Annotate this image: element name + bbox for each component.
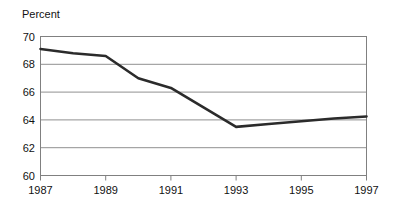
y-tick-label: 64 xyxy=(23,114,35,126)
y-tick-labels-group: 606264666870 xyxy=(23,31,35,182)
x-tick-labels-group: 198719891991199319951997 xyxy=(28,184,378,196)
x-tick-label: 1989 xyxy=(93,184,117,196)
line-chart-plot: 606264666870 198719891991199319951997 xyxy=(0,0,393,214)
x-tick-label: 1991 xyxy=(159,184,183,196)
y-tick-label: 60 xyxy=(23,170,35,182)
y-tick-label: 68 xyxy=(23,58,35,70)
y-tick-label: 66 xyxy=(23,86,35,98)
data-series-line xyxy=(41,49,367,127)
y-tick-label: 70 xyxy=(23,31,35,43)
chart-figure: Percent 606264666870 1987198919911993199… xyxy=(0,0,393,214)
x-tick-marks-group xyxy=(41,176,367,181)
x-tick-label: 1993 xyxy=(224,184,248,196)
y-tick-label: 62 xyxy=(23,142,35,154)
x-tick-label: 1987 xyxy=(28,184,52,196)
x-tick-label: 1997 xyxy=(354,184,378,196)
x-tick-label: 1995 xyxy=(289,184,313,196)
